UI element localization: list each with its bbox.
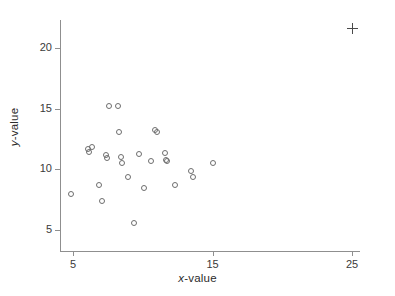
y-axis-title: y-value	[8, 77, 20, 177]
y-axis-title-suffix: -value	[8, 108, 20, 141]
data-point	[154, 129, 160, 135]
data-point	[68, 191, 74, 197]
data-point	[96, 182, 102, 188]
data-point	[99, 198, 105, 204]
data-point	[190, 174, 196, 180]
data-point	[125, 174, 131, 180]
data-point	[104, 155, 110, 161]
data-point	[148, 158, 154, 164]
data-point	[172, 182, 178, 188]
x-axis-title-suffix: -value	[184, 272, 217, 284]
data-point	[118, 154, 124, 160]
plot-area	[0, 0, 395, 296]
data-point	[119, 160, 125, 166]
scatter-plot-figure: 5101520 51525 x-value y-value	[0, 0, 395, 296]
data-point	[141, 185, 147, 191]
data-point	[188, 168, 194, 174]
y-axis-title-variable: y	[8, 140, 20, 146]
data-point	[116, 129, 122, 135]
data-point	[136, 151, 142, 157]
data-point	[162, 150, 168, 156]
data-point	[210, 160, 216, 166]
data-point-plus	[347, 23, 358, 34]
data-point	[115, 103, 121, 109]
data-point	[131, 220, 137, 226]
data-point	[164, 158, 170, 164]
data-point	[106, 103, 112, 109]
x-axis-title: x-value	[0, 272, 395, 284]
data-point	[89, 144, 95, 150]
